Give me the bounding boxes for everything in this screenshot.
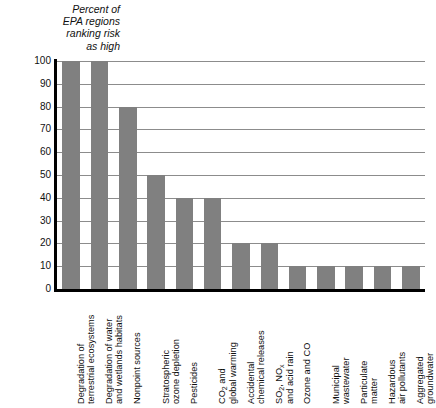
x-axis-category-label: Ozone and CO [302,292,312,404]
bar [317,266,335,289]
bar [119,107,137,289]
y-axis-tick-label: 70 [11,124,51,134]
bar [232,243,250,289]
gridline [57,61,425,62]
y-axis-tick-label: 0 [11,284,51,294]
x-axis-category-label: Degradation of waterand wetlands habitat… [104,292,125,404]
x-axis-category-label: Stratosphericozone depletion [161,292,182,404]
y-axis-tick-label: 40 [11,193,51,203]
plot-area [57,61,425,289]
x-axis-category-label: Aggregatedgroundwater [415,292,436,404]
bar [289,266,307,289]
bar [261,243,279,289]
x-axis-category-label: Accidentalchemical releases [246,292,267,404]
bar [374,266,392,289]
bar [204,198,222,289]
gridline [57,198,425,199]
bar [91,61,109,289]
x-axis-category-label: Pesticides [189,292,199,404]
y-axis-line [54,59,57,291]
y-axis-tick-label: 10 [11,261,51,271]
y-axis-tick-label: 90 [11,79,51,89]
x-axis-category-label: Degradation ofterrestrial ecosystems [76,292,97,404]
gridline [57,107,425,108]
x-axis-category-label: Particulatematter [359,292,380,404]
bar [147,175,165,289]
y-axis-tick-label: 50 [11,170,51,180]
bar [402,266,420,289]
bar [345,266,363,289]
gridline [57,84,425,85]
x-axis-category-label: CO2 andglobal warming [217,292,239,404]
x-axis-category-label: Nonpoint sources [132,292,142,404]
y-axis-tick-label: 80 [11,102,51,112]
gridline [57,152,425,153]
chart-title: Percent of EPA regions ranking risk as h… [8,3,120,52]
y-axis-tick-label: 100 [11,56,51,66]
gridline [57,129,425,130]
bar [176,198,194,289]
y-axis-tick-label: 60 [11,147,51,157]
x-axis-category-label: Municipalwastewater [331,292,352,404]
gridline [57,221,425,222]
x-axis-labels: Degradation ofterrestrial ecosystemsDegr… [57,294,425,406]
y-axis-tick-label: 20 [11,238,51,248]
x-axis-category-label: Hazardousair pollutants [387,292,408,404]
y-axis-tick-label: 30 [11,216,51,226]
x-axis-category-label: SO2, NOxand acid rain [274,292,296,404]
bar [62,61,80,289]
gridline [57,175,425,176]
